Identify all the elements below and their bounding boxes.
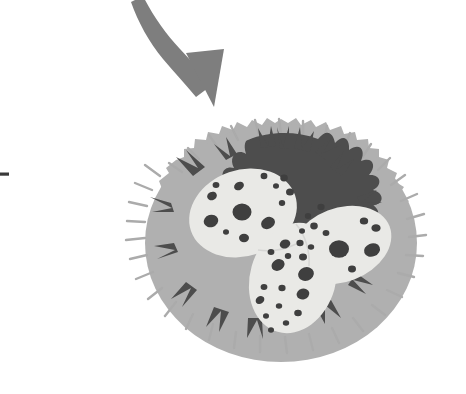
figure-canvas: Schematic drawing of a granulocyte (whit… (0, 0, 466, 394)
granulocyte-cell (0, 0, 466, 394)
